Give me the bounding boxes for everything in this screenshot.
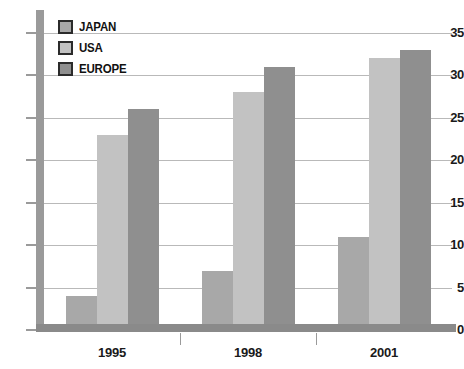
y-axis-tick	[26, 117, 36, 119]
x-axis-label: 2001	[316, 345, 452, 360]
y-axis-tick-label: 30	[442, 67, 464, 82]
legend-label: EUROPE	[79, 62, 126, 76]
bar-japan-1998	[202, 271, 233, 330]
y-axis-tick-label: 35	[442, 25, 464, 40]
y-axis-tick	[26, 244, 36, 246]
y-axis-tick	[26, 159, 36, 161]
y-axis-tick-label: 15	[442, 195, 464, 210]
x-axis-separator	[316, 333, 317, 345]
legend-item-usa: USA	[58, 38, 131, 58]
legend-item-europe: EUROPE	[58, 59, 131, 79]
y-axis-tick-label: 0	[442, 322, 464, 337]
legend-swatch-icon	[58, 41, 73, 55]
y-axis-tick	[26, 202, 36, 204]
bar-usa-1995	[97, 135, 128, 330]
y-axis-tick-label: 25	[442, 110, 464, 125]
bar-usa-2001	[369, 58, 400, 330]
y-axis-tick-label: 10	[442, 237, 464, 252]
bar-japan-2001	[338, 237, 369, 330]
x-axis-baseline	[36, 324, 456, 332]
bar-usa-1998	[233, 92, 264, 330]
legend-label: JAPAN	[79, 20, 116, 34]
bar-europe-2001	[400, 50, 431, 330]
y-axis-tick	[26, 329, 36, 331]
y-axis-tick	[26, 32, 36, 34]
bar-europe-1995	[128, 109, 159, 330]
legend-item-japan: JAPAN	[58, 17, 131, 37]
legend-swatch-icon	[58, 62, 73, 76]
x-axis-label: 1998	[180, 345, 316, 360]
bar-europe-1998	[264, 67, 295, 330]
bar-chart: 05101520253035 199519982001 JAPAN USA EU…	[0, 0, 464, 369]
y-axis-tick-label: 20	[442, 152, 464, 167]
legend-label: USA	[79, 41, 103, 55]
legend: JAPAN USA EUROPE	[58, 17, 131, 80]
x-axis-label: 1995	[44, 345, 180, 360]
y-axis-tick	[26, 287, 36, 289]
y-axis-tick	[26, 74, 36, 76]
x-axis-separator	[180, 333, 181, 345]
y-axis-tick-label: 5	[442, 280, 464, 295]
legend-swatch-icon	[58, 20, 73, 34]
y-axis	[36, 10, 44, 332]
